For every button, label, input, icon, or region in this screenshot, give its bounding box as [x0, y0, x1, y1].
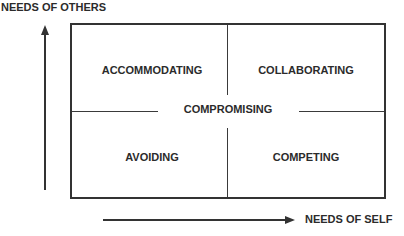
x-axis-arrow	[103, 216, 295, 224]
quadrant-accommodating: ACCOMMODATING	[102, 64, 203, 76]
horizontal-divider-left	[72, 111, 158, 112]
x-axis-label: NEEDS OF SELF	[305, 213, 392, 225]
horizontal-divider-right	[299, 111, 384, 112]
quadrant-competing: COMPETING	[273, 151, 340, 163]
vertical-divider-lower	[227, 128, 228, 197]
quadrant-collaborating: COLLABORATING	[258, 64, 354, 76]
vertical-divider-upper	[227, 25, 228, 95]
quadrant-avoiding: AVOIDING	[125, 151, 179, 163]
center-compromising: COMPROMISING	[184, 103, 273, 115]
y-axis-arrow	[41, 25, 49, 190]
